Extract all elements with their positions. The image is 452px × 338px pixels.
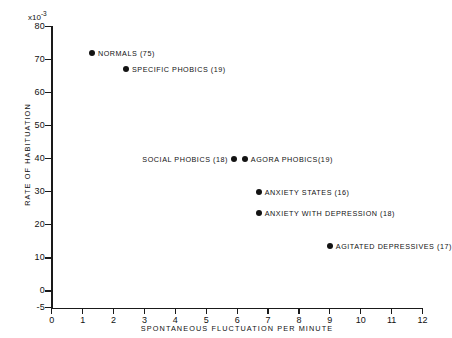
x-tick-0: [51, 308, 52, 314]
data-point-label-2: SOCIAL PHOBICS (18): [142, 154, 228, 163]
y-tick-label-wrap: 10: [0, 252, 45, 263]
data-point-label-6: AGITATED DEPRESSIVES (17): [336, 242, 452, 251]
data-point-3[interactable]: [242, 156, 248, 162]
y-tick-label-wrap: 0: [0, 285, 45, 296]
x-tick-5: [206, 308, 207, 314]
data-point-2[interactable]: [231, 156, 237, 162]
y-axis-line: [51, 26, 53, 309]
data-point-1[interactable]: [123, 66, 129, 72]
y-tick-label-wrap: 80: [0, 21, 45, 32]
x-tick-2: [113, 308, 114, 314]
y-tick-0: [45, 290, 52, 291]
x-tick-4: [175, 308, 176, 314]
data-point-label-1: SPECIFIC PHOBICS (19): [132, 65, 226, 74]
y-tick-label-wrap: 70: [0, 54, 45, 65]
data-point-label-5: ANXIETY WITH DEPRESSION (18): [265, 209, 395, 218]
x-tick-6: [237, 308, 238, 314]
y-axis-exponent-note: x10-3: [28, 10, 47, 22]
y-tick-60: [45, 92, 52, 93]
x-tick-3: [144, 308, 145, 314]
data-point-label-0: NORMALS (75): [98, 48, 155, 57]
x-tick-12: [422, 308, 423, 314]
y-axis-title: RATE OF HABITUATION: [23, 80, 32, 230]
y-tick-80: [45, 26, 52, 27]
data-point-label-3: AGORA PHOBICS(19): [251, 154, 333, 163]
x-tick-1: [82, 308, 83, 314]
y-tick-label-wrap: -5: [0, 302, 45, 313]
data-point-0[interactable]: [89, 50, 95, 56]
x-tick-9: [329, 308, 330, 314]
y-tick-20: [45, 224, 52, 225]
y-tick-label-70: 70: [19, 54, 45, 64]
y-tick-50: [45, 125, 52, 126]
data-point-5[interactable]: [256, 210, 262, 216]
data-point-4[interactable]: [256, 189, 262, 195]
y-tick-70: [45, 59, 52, 60]
data-point-6[interactable]: [327, 243, 333, 249]
x-tick-11: [391, 308, 392, 314]
x-tick-7: [267, 308, 268, 314]
y-tick-label-80: 80: [19, 21, 45, 31]
x-tick-8: [298, 308, 299, 314]
y-tick-40: [45, 158, 52, 159]
y-tick-label-0: 0: [19, 285, 45, 295]
y-tick-label--5: -5: [19, 302, 45, 312]
y-tick-30: [45, 191, 52, 192]
scatter-chart-figure: x10-3 80706050403020100-5 01234567891011…: [0, 0, 452, 338]
y-tick-label-10: 10: [19, 252, 45, 262]
y-axis-exponent-power: -3: [41, 10, 47, 17]
x-axis-title: SPONTANEOUS FLUCTUATION PER MINUTE: [51, 324, 423, 333]
y-tick-10: [45, 257, 52, 258]
x-tick-10: [360, 308, 361, 314]
data-point-label-4: ANXIETY STATES (16): [265, 187, 350, 196]
